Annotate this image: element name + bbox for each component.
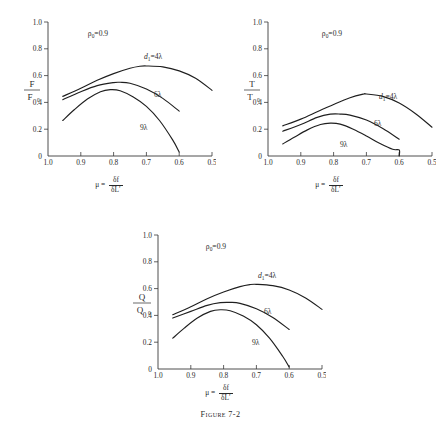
curve-d4 [63, 66, 212, 96]
curves-f [63, 66, 212, 152]
x-axis-title-f: μ = δf δL′ [2, 176, 216, 194]
chart-panel-t-over-t0: 00.20.40.60.81.0 1.00.90.80.70.60.5 T T … [222, 4, 436, 204]
svg-text:ρ0=0.9: ρ0=0.9 [322, 29, 342, 39]
svg-text:0.9: 0.9 [296, 158, 306, 167]
svg-text:0.2: 0.2 [33, 125, 43, 134]
x-axis-title-q: μ = δf δL′ [112, 384, 326, 402]
figure-sheet: 00.20.40.60.81.0 1.00.90.80.70.60.5 F F … [0, 0, 441, 436]
rho-annotation-f: ρ0=0.9 [88, 29, 108, 39]
svg-text:ρ0=0.9: ρ0=0.9 [88, 29, 108, 39]
svg-text:0.2: 0.2 [143, 338, 153, 347]
svg-text:0.6: 0.6 [175, 158, 185, 167]
axes-q [158, 235, 322, 369]
svg-text:0.7: 0.7 [142, 158, 152, 167]
svg-text:0.8: 0.8 [329, 158, 339, 167]
svg-text:F: F [29, 79, 34, 89]
curve-label-6lambda: 6λ [154, 90, 162, 99]
svg-text:0: 0 [37, 97, 40, 103]
svg-text:0: 0 [258, 152, 262, 161]
svg-text:0.5: 0.5 [207, 158, 216, 167]
caption-label: Figure [201, 410, 226, 419]
curve-label-9lambda: 9λ [252, 338, 260, 347]
y-axis-title-t: T T 0 [244, 79, 260, 103]
x-axis-title-t: μ = δf δL′ [222, 176, 436, 194]
curves-t [283, 94, 432, 156]
y-ticks-t: 00.20.40.60.81.0 [253, 18, 268, 161]
svg-text:0.2: 0.2 [253, 125, 263, 134]
curves-q [173, 284, 322, 367]
svg-text:0: 0 [38, 152, 42, 161]
svg-text:0.5: 0.5 [427, 158, 436, 167]
curve-6 [283, 114, 399, 139]
x-ticks-t: 1.00.90.80.70.60.5 [263, 152, 436, 167]
plot-svg-t: 00.20.40.60.81.0 1.00.90.80.70.60.5 T T … [222, 4, 436, 204]
svg-text:1.0: 1.0 [153, 371, 163, 380]
curve-label-4lambda: d1=4λ [144, 52, 163, 62]
plot-svg-f: 00.20.40.60.81.0 1.00.90.80.70.60.5 F F … [2, 4, 216, 204]
svg-text:0.9: 0.9 [186, 371, 196, 380]
svg-text:T: T [247, 92, 253, 102]
y-axis-title-q: Q Q 0 [133, 292, 151, 316]
svg-text:1.0: 1.0 [263, 158, 273, 167]
rho-annotation-q: ρ0=0.9 [206, 242, 226, 252]
y-axis-title-f: F F 0 [24, 79, 40, 103]
curve-label-6lambda: 6λ [374, 119, 382, 128]
axes-t [268, 22, 432, 156]
svg-text:F: F [27, 92, 32, 102]
curve-label-4lambda: d1=4λ [258, 271, 277, 281]
svg-text:ρ0=0.9: ρ0=0.9 [206, 242, 226, 252]
svg-text:0: 0 [148, 310, 151, 316]
svg-text:Q: Q [139, 292, 146, 302]
svg-text:0.7: 0.7 [362, 158, 372, 167]
rho-annotation-t: ρ0=0.9 [322, 29, 342, 39]
svg-text:1.0: 1.0 [33, 18, 43, 27]
curve-9 [173, 310, 289, 367]
svg-text:0.8: 0.8 [219, 371, 229, 380]
svg-text:0.5: 0.5 [317, 371, 326, 380]
curve-6 [63, 82, 179, 111]
svg-text:0.8: 0.8 [109, 158, 119, 167]
svg-text:1.0: 1.0 [43, 158, 53, 167]
svg-text:0.8: 0.8 [253, 44, 263, 53]
svg-text:1.0: 1.0 [253, 18, 263, 27]
caption-number: 7-2 [228, 410, 240, 419]
curve-label-4lambda: d1=4λ [379, 92, 398, 102]
y-ticks-q: 00.20.40.60.81.0 [143, 231, 158, 374]
svg-text:0.7: 0.7 [252, 371, 262, 380]
curve-label-6lambda: 6λ [264, 307, 272, 316]
chart-panel-f-over-f0: 00.20.40.60.81.0 1.00.90.80.70.60.5 F F … [2, 4, 216, 204]
curve-9 [63, 90, 179, 152]
svg-text:Q: Q [137, 305, 144, 315]
svg-text:0: 0 [148, 365, 152, 374]
curve-label-9lambda: 9λ [340, 140, 348, 149]
svg-text:1.0: 1.0 [143, 231, 153, 240]
svg-text:0.6: 0.6 [285, 371, 295, 380]
svg-text:0.8: 0.8 [143, 257, 153, 266]
svg-text:T: T [249, 79, 255, 89]
axes-f [48, 22, 212, 156]
figure-caption: Figure 7-2 [0, 410, 441, 419]
curve-label-9lambda: 9λ [140, 123, 148, 132]
svg-text:0.8: 0.8 [33, 44, 43, 53]
svg-text:0: 0 [257, 97, 260, 103]
y-ticks-f: 00.20.40.60.81.0 [33, 18, 48, 161]
svg-text:0.6: 0.6 [395, 158, 405, 167]
x-ticks-f: 1.00.90.80.70.60.5 [43, 152, 216, 167]
x-ticks-q: 1.00.90.80.70.60.5 [153, 365, 326, 380]
svg-text:0.9: 0.9 [76, 158, 86, 167]
